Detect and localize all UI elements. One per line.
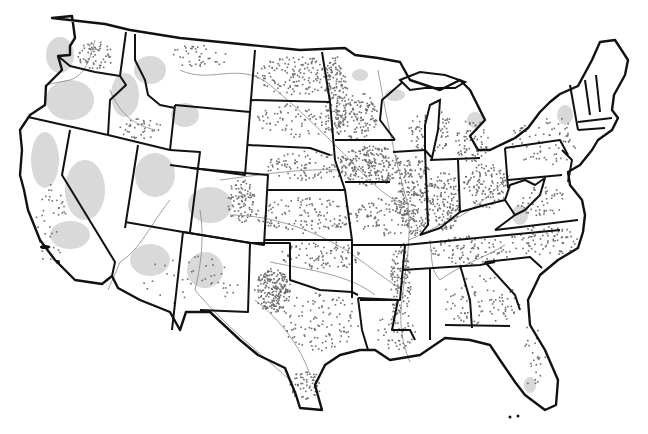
dot-point [228, 206, 230, 208]
dot-point [295, 384, 297, 386]
dot-point [355, 158, 357, 160]
dot-point [299, 76, 301, 78]
dot-point [473, 187, 475, 189]
dot-point [397, 280, 399, 282]
dot-point [405, 221, 407, 223]
dot-point [300, 327, 302, 329]
dot-point [343, 327, 345, 329]
dot-point [393, 177, 395, 179]
dot-point [320, 172, 322, 174]
dot-point [534, 343, 536, 345]
dot-point [322, 324, 324, 326]
dot-point [411, 194, 413, 196]
dot-point [262, 127, 264, 129]
dot-point [410, 286, 412, 288]
dot-point [295, 85, 297, 87]
dot-point [540, 238, 542, 240]
dot-point [323, 76, 325, 78]
dot-point [300, 388, 302, 390]
dot-point [373, 205, 375, 207]
dot-point [281, 274, 283, 276]
dot-point [257, 116, 259, 118]
dot-point [442, 229, 444, 231]
dot-point [357, 325, 359, 327]
dot-point [239, 207, 241, 209]
dot-point [566, 135, 568, 137]
dot-point [336, 206, 338, 208]
dot-point [314, 209, 316, 211]
dot-point [388, 157, 390, 159]
dot-point [551, 195, 553, 197]
dot-point [320, 294, 322, 296]
dot-point [485, 146, 487, 148]
dot-point [266, 123, 268, 125]
dot-point [233, 206, 235, 208]
dot-point [480, 204, 482, 206]
dot-point [235, 195, 237, 197]
dot-point [371, 174, 373, 176]
dot-point [477, 256, 479, 258]
dot-point [300, 175, 302, 177]
dot-point [447, 201, 449, 203]
dot-point [374, 121, 376, 123]
dot-point [285, 281, 287, 283]
dot-point [356, 156, 358, 158]
dot-point [554, 240, 556, 242]
dot-point [326, 168, 328, 170]
dot-point [249, 194, 251, 196]
dot-point [106, 46, 108, 48]
dot-point [246, 183, 248, 185]
dot-point [53, 212, 55, 214]
dot-point [364, 130, 366, 132]
dot-point [305, 156, 307, 158]
dot-point [355, 155, 357, 157]
dot-point [127, 131, 129, 133]
dot-point [399, 305, 401, 307]
dot-point [399, 212, 401, 214]
dot-point [328, 120, 330, 122]
dot-point [284, 163, 286, 165]
dot-point [476, 170, 478, 172]
dot-point [567, 133, 569, 135]
dot-point [270, 225, 272, 227]
dot-point [244, 211, 246, 213]
dot-point [545, 187, 547, 189]
dot-point [311, 203, 313, 205]
dot-point [264, 78, 266, 80]
dot-point [356, 131, 358, 133]
dot-point [285, 105, 287, 107]
dot-point [490, 278, 492, 280]
dot-point [477, 191, 479, 193]
dot-point [258, 291, 260, 293]
dot-point [287, 112, 289, 114]
dot-point [443, 204, 445, 206]
dot-point [105, 55, 107, 57]
dot-point [505, 251, 507, 253]
dot-point [328, 74, 330, 76]
dot-point [441, 180, 443, 182]
dot-point [359, 150, 361, 152]
dot-point [323, 226, 325, 228]
dot-point [305, 391, 307, 393]
dot-point [350, 325, 352, 327]
dot-point [282, 129, 284, 131]
dot-point [343, 118, 345, 120]
dot-point [432, 209, 434, 211]
dot-point [337, 225, 339, 227]
dot-point [288, 63, 290, 65]
dot-point [312, 300, 314, 302]
dot-point [461, 299, 463, 301]
dot-point [534, 244, 536, 246]
dot-point [349, 102, 351, 104]
dot-point [257, 285, 259, 287]
dot-point [539, 375, 541, 377]
dot-point [533, 187, 535, 189]
dot-point [272, 164, 274, 166]
dot-point [400, 252, 402, 254]
dot-point [321, 121, 323, 123]
dot-point [569, 139, 571, 141]
dot-point [205, 278, 207, 280]
dot-point [314, 316, 316, 318]
dot-point [300, 224, 302, 226]
dot-point [344, 114, 346, 116]
